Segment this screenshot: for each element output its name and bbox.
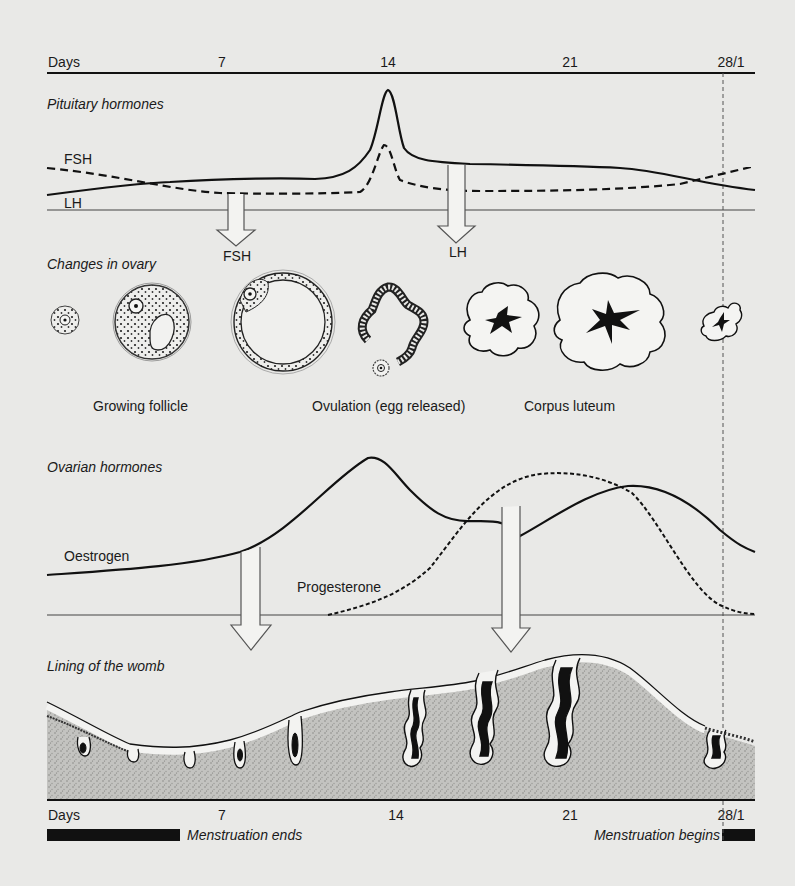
progesterone-to-womb-arrow-icon — [492, 506, 530, 652]
womb-lining-tissue — [47, 659, 755, 800]
corpus-luteum-large-icon — [554, 273, 665, 370]
menstrual-cycle-diagram: Days 7 14 21 28/1 Pituitary hormones FSH… — [0, 0, 795, 886]
corpus-luteum-small-icon — [464, 283, 539, 356]
corpus-albicans-icon — [701, 303, 741, 340]
diagram-graphics — [0, 0, 795, 886]
oestrogen-to-womb-arrow-icon — [231, 547, 271, 650]
ruptured-follicle-icon — [362, 287, 424, 376]
mature-follicle-icon — [231, 270, 335, 374]
growing-follicle-icon — [113, 283, 191, 361]
fsh-down-arrow-icon — [217, 194, 255, 246]
primordial-follicle-icon — [51, 306, 79, 334]
fsh-curve — [47, 145, 755, 194]
progesterone-curve — [328, 473, 755, 615]
lh-down-arrow-icon — [438, 165, 475, 243]
oestrogen-curve — [47, 458, 755, 575]
